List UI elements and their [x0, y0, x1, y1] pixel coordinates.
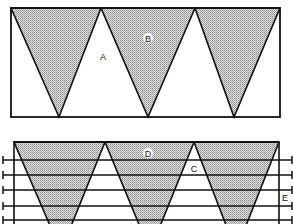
lower-panel: D C E [3, 142, 292, 224]
shaded-triangle-1 [11, 8, 101, 117]
triangle-diagram: B A D C E [0, 0, 293, 224]
label-b: B [145, 34, 151, 44]
upper-panel: B A [11, 8, 280, 117]
label-a: A [100, 52, 106, 62]
label-c: C [191, 164, 198, 174]
shaded-triangle-3 [195, 8, 280, 117]
shaded-triangle-2 [101, 8, 195, 117]
lower-triangle-3 [194, 142, 279, 224]
label-e: E [282, 193, 288, 203]
label-d: D [145, 149, 152, 159]
lower-triangle-1 [14, 142, 105, 224]
